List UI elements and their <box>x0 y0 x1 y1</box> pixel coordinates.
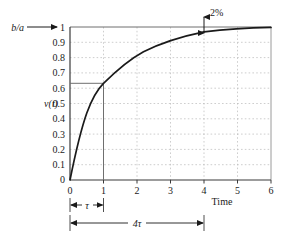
x-tick-label: 0 <box>68 185 73 196</box>
asymptote-label: b/a <box>11 22 24 33</box>
y-tick-label: 0.3 <box>53 129 66 140</box>
y-tick-label: 0 <box>60 174 65 185</box>
x-tick-label: 4 <box>202 185 207 196</box>
four-tau-span-annotation: 4τ <box>70 215 204 231</box>
time-constant-helper-lines <box>70 83 104 180</box>
four-tau-span-label: 4τ <box>133 218 142 229</box>
exponential-step-response-figure: 1 0.9 0.8 0.7 0.6 0.5 0.4 0.3 0.2 0.1 0 … <box>0 0 287 239</box>
tau-span-label: τ <box>85 200 89 211</box>
y-tick-label: 0.1 <box>53 159 66 170</box>
x-tick-label: 5 <box>235 185 240 196</box>
x-tick-label: 1 <box>101 185 106 196</box>
tau-span-annotation: τ <box>70 198 104 212</box>
y-tick-label: 0.9 <box>53 37 66 48</box>
y-tick-label: 0.7 <box>53 67 66 78</box>
tolerance-band-annotation: 2% <box>204 7 223 33</box>
x-tick-label: 2 <box>135 185 140 196</box>
x-tick-labels: 0 1 2 3 4 5 6 <box>68 185 274 196</box>
y-tick-label: 0.4 <box>53 113 66 124</box>
y-axis-label: v(t) <box>44 98 59 110</box>
chart-canvas: 1 0.9 0.8 0.7 0.6 0.5 0.4 0.3 0.2 0.1 0 … <box>0 0 287 239</box>
y-tick-label: 0.2 <box>53 144 66 155</box>
grid-lines <box>70 27 271 180</box>
y-tick-label: 1 <box>60 22 65 33</box>
x-tick-label: 3 <box>168 185 173 196</box>
x-axis-label: Time <box>212 196 233 207</box>
asymptote-callout: b/a <box>11 22 57 33</box>
tolerance-band-label: 2% <box>210 7 223 18</box>
y-tick-label: 0.8 <box>53 52 66 63</box>
y-tick-label: 0.6 <box>53 83 66 94</box>
x-tick-label: 6 <box>269 185 274 196</box>
